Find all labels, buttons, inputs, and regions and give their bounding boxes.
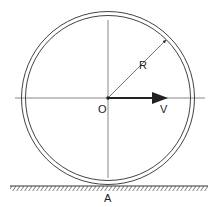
center-label: O — [98, 103, 107, 115]
center-point — [106, 96, 110, 100]
contact-point-label: A — [104, 192, 112, 204]
wheel-diagram: O R V A — [0, 0, 217, 207]
radius-line — [108, 40, 166, 98]
ground — [10, 186, 208, 191]
radius-label: R — [139, 59, 147, 71]
velocity-label: V — [160, 103, 168, 115]
